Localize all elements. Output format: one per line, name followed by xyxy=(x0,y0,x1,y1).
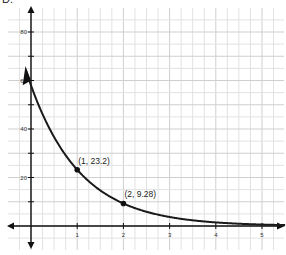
svg-text:5: 5 xyxy=(260,232,264,238)
svg-text:4: 4 xyxy=(214,232,218,238)
svg-text:40: 40 xyxy=(20,126,27,132)
svg-text:(1, 23.2): (1, 23.2) xyxy=(78,156,110,166)
svg-text:20: 20 xyxy=(20,175,27,181)
svg-text:2: 2 xyxy=(122,232,126,238)
svg-text:(2, 9.28): (2, 9.28) xyxy=(124,189,156,199)
svg-text:3: 3 xyxy=(168,232,172,238)
exponential-graph: 1234520406080 (1, 23.2)(2, 9.28) xyxy=(0,0,286,255)
svg-text:1: 1 xyxy=(76,232,80,238)
svg-text:80: 80 xyxy=(20,29,27,35)
